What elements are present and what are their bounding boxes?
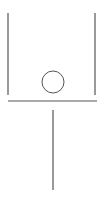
ball-circle <box>42 71 64 93</box>
diagram-canvas <box>0 0 102 198</box>
